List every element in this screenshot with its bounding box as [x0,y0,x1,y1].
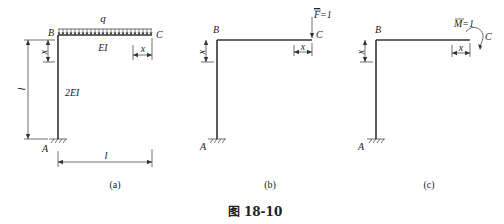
fixed-support-icon [208,139,226,143]
support-label-a: A [41,143,49,154]
beam-coord-x-label: x [458,42,464,53]
unit-load-label: F=1 [313,9,332,20]
panel-c: M=1 B C x x A (c) [355,18,492,191]
beam-coord-x-label: x [140,43,146,54]
unit-moment-label: M=1 [453,18,474,29]
joint-label-b: B [48,27,54,38]
fixed-support-icon [49,139,67,143]
panel-label-c: (c) [423,179,434,191]
column-coord-x-label: x [38,49,49,55]
unit-moment-arrow-icon [466,27,483,47]
moment-arrowhead-icon [478,44,482,50]
beam-coord-x-label: x [300,41,306,52]
joint-label-b: B [375,24,381,35]
support-label-a: A [199,141,207,152]
distributed-load-icon [58,29,153,35]
beam-length-label: l [104,149,107,161]
joint-label-c: C [316,29,323,40]
panel-label-a: (a) [109,179,120,191]
column-length-label: l [15,87,27,90]
joint-label-c: C [156,29,163,40]
joint-label-c: C [485,31,492,42]
figure-caption: 图 18-10 [228,205,283,219]
figure-canvas: q B C EI x x l 2EI A l (a) F=1 [0,0,504,224]
column-coord-x-label: x [196,49,207,55]
beam-stiffness-label: EI [97,42,108,53]
joint-label-b: B [213,24,219,35]
column-stiffness-label: 2EI [65,87,80,98]
support-label-a: A [357,141,365,152]
load-label-q: q [100,12,106,24]
panel-b: F=1 B C x x A (b) [196,9,332,191]
panel-a: q B C EI x x l 2EI A l (a) [15,12,163,191]
fixed-support-icon [367,139,385,143]
column-coord-x-label: x [355,49,366,55]
panel-label-b: (b) [264,179,276,191]
